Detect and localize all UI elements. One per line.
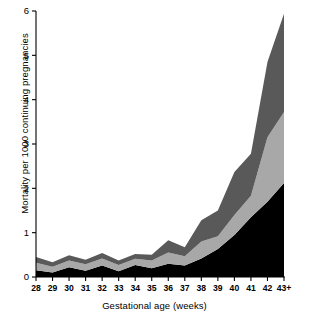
- x-tick-label: 42: [263, 283, 273, 293]
- x-tick-label: 39: [213, 283, 223, 293]
- x-tick-label: 30: [64, 283, 74, 293]
- x-tick-label: 28: [31, 283, 41, 293]
- x-tick-label: 31: [81, 283, 91, 293]
- stacked-bands: [36, 14, 284, 277]
- x-tick-label: 32: [97, 283, 107, 293]
- y-tick-label: 6: [24, 5, 29, 16]
- y-tick-label: 3: [24, 138, 29, 149]
- y-axis-ticks: 0123456: [24, 5, 36, 282]
- x-tick-label: 38: [197, 283, 207, 293]
- y-tick-label: 0: [24, 271, 29, 282]
- x-tick-label: 34: [130, 283, 140, 293]
- y-tick-label: 1: [24, 227, 29, 238]
- x-axis-ticks: 28293031323334353637383940414243+: [31, 277, 291, 293]
- x-tick-label: 36: [163, 283, 173, 293]
- plot-area: 0123456 28293031323334353637383940414243…: [0, 0, 309, 322]
- x-tick-label: 37: [180, 283, 190, 293]
- x-tick-label: 29: [48, 283, 58, 293]
- y-tick-label: 2: [24, 183, 29, 194]
- x-tick-label: 40: [230, 283, 240, 293]
- x-tick-label: 43+: [277, 283, 292, 293]
- mortality-area-chart: Mortality per 1000 continuing pregnancie…: [0, 0, 309, 322]
- x-tick-label: 33: [114, 283, 124, 293]
- y-tick-label: 4: [24, 94, 29, 105]
- x-tick-label: 35: [147, 283, 157, 293]
- x-tick-label: 41: [246, 283, 256, 293]
- y-tick-label: 5: [24, 50, 29, 61]
